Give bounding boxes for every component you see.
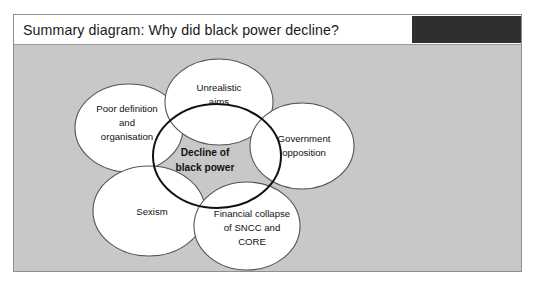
- screenshot-root: Summary diagram: Why did black power dec…: [0, 0, 535, 284]
- node-decline-of-black-power-label: Decline of black power: [176, 147, 235, 173]
- node-unrealistic-aims-line1: Unrealistic: [197, 82, 242, 93]
- node-sexism-label: Sexism: [136, 206, 167, 217]
- summary-diagram-header: Summary diagram: Why did black power dec…: [13, 14, 522, 45]
- center-label-line2: black power: [176, 162, 235, 173]
- node-poor-definition-line1: Poor definition: [96, 103, 157, 114]
- center-label-line1: Decline of: [181, 147, 230, 158]
- header-dark-block: [412, 16, 521, 43]
- node-financial-collapse-line3: CORE: [238, 236, 266, 247]
- node-financial-collapse-line2: of SNCC and: [224, 222, 281, 233]
- node-poor-definition-line2: and: [119, 117, 135, 128]
- node-poor-definition-line3: organisation: [101, 131, 153, 142]
- node-government-opposition-shape[interactable]: [250, 103, 354, 189]
- diagram-canvas: Unrealistic aims Poor definition and org…: [14, 46, 521, 271]
- node-unrealistic-aims-line2: aims: [209, 96, 229, 107]
- page-title: Summary diagram: Why did black power dec…: [14, 15, 412, 44]
- node-sexism-line1: Sexism: [136, 206, 167, 217]
- node-financial-collapse-line1: Financial collapse: [214, 208, 290, 219]
- node-government-opposition-line1: Government: [278, 133, 331, 144]
- node-government-opposition-line2: opposition: [282, 147, 326, 158]
